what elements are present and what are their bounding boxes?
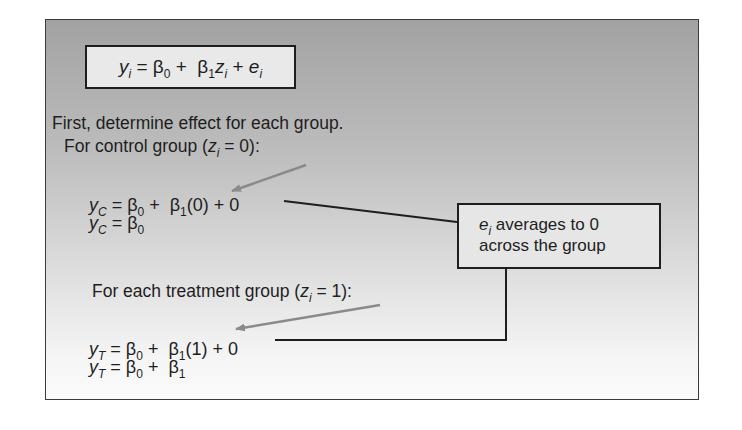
- treatment-equation-1: yT = β0 + β1(1) + 0: [89, 339, 238, 359]
- control-heading: For control group (zi = 0):: [64, 136, 260, 156]
- treatment-equation-2: yT = β0 + β1: [89, 357, 185, 377]
- control-equation-1: yC = β0 + β1(0) + 0: [89, 195, 239, 215]
- model-equation: yi = β0 + β1zi + ei: [119, 56, 262, 78]
- callout-line-2: across the group: [479, 235, 659, 256]
- error-term-callout: ei averages to 0 across the group: [457, 203, 661, 269]
- model-equation-box: yi = β0 + β1zi + ei: [85, 45, 296, 89]
- treatment-heading: For each treatment group (zi = 1):: [92, 281, 352, 301]
- control-equation-2: yC = β0: [89, 213, 144, 233]
- intro-text: First, determine effect for each group.: [52, 113, 343, 133]
- callout-line-1: ei averages to 0: [479, 214, 659, 235]
